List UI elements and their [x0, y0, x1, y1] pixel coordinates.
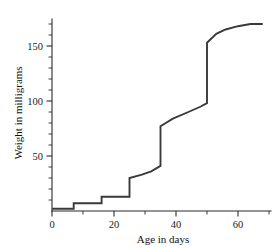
growth-curve-line	[52, 24, 263, 209]
y-tick-label-100: 100	[27, 96, 43, 107]
x-tick-label-60: 60	[233, 219, 244, 230]
growth-chart-figure: 150 100 50 0 20 40 60 Age in days Weight…	[0, 0, 279, 248]
y-tick-label-150: 150	[27, 41, 43, 52]
y-axis-major-ticks	[47, 46, 53, 156]
x-tick-label-0: 0	[49, 219, 54, 230]
x-tick-label-40: 40	[171, 219, 182, 230]
chart-plot-area: 150 100 50 0 20 40 60 Age in days Weight…	[0, 0, 279, 248]
y-tick-label-50: 50	[33, 151, 44, 162]
x-axis-title: Age in days	[137, 233, 190, 245]
x-tick-label-20: 20	[109, 219, 120, 230]
y-axis-title: Weight in milligrams	[12, 66, 24, 159]
